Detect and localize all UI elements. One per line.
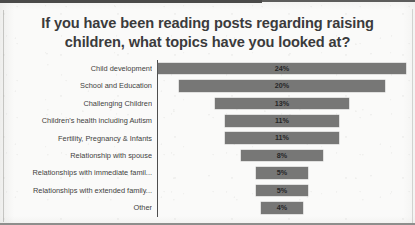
bar-row: School and Education20% xyxy=(0,77,415,94)
bar-track: 4% xyxy=(158,199,406,216)
bar-track: 11% xyxy=(158,130,406,147)
bar-value-label: 4% xyxy=(261,202,302,214)
category-label: School and Education xyxy=(2,77,152,94)
top-border-line-dark xyxy=(0,0,262,3)
bar-track: 5% xyxy=(158,164,406,181)
bar-value-label: 13% xyxy=(215,98,349,110)
category-label: Child development xyxy=(2,60,152,77)
bar-value-label: 5% xyxy=(256,167,308,179)
bar-row: Children's health including Autism11% xyxy=(0,112,415,129)
bar-rows: Child development24%School and Education… xyxy=(0,60,415,217)
plot-area: Child development24%School and Education… xyxy=(0,60,415,218)
chart-screenshot: If you have been reading posts regarding… xyxy=(0,0,415,225)
category-label: Other xyxy=(2,199,152,216)
bar-track: 11% xyxy=(158,112,406,129)
chart-title: If you have been reading posts regarding… xyxy=(14,14,401,52)
bar-track: 8% xyxy=(158,147,406,164)
bar-track: 5% xyxy=(158,182,406,199)
bottom-border-line xyxy=(0,223,415,225)
bar-value-label: 8% xyxy=(241,150,324,162)
category-label: Challenging Children xyxy=(2,95,152,112)
bar-value-label: 5% xyxy=(256,185,308,197)
category-label: Fertility, Pregnancy & Infants xyxy=(2,130,152,147)
bar-row: Other4% xyxy=(0,199,415,216)
category-label: Relationships with immediate famil... xyxy=(2,164,152,181)
bar-value-label: 11% xyxy=(225,132,339,144)
bar-row: Relationships with extended family...5% xyxy=(0,182,415,199)
chart-title-line-1: If you have been reading posts regarding… xyxy=(14,14,401,33)
bar-value-label: 24% xyxy=(158,63,406,75)
category-label: Relationships with extended family... xyxy=(2,182,152,199)
bar-row: Child development24% xyxy=(0,60,415,77)
bar-value-label: 20% xyxy=(179,80,386,92)
bar-row: Relationship with spouse8% xyxy=(0,147,415,164)
bar-track: 13% xyxy=(158,95,406,112)
chart-title-line-2: children, what topics have you looked at… xyxy=(14,33,401,52)
bar-value-label: 11% xyxy=(225,115,339,127)
bar-track: 24% xyxy=(158,60,406,77)
bar-row: Fertility, Pregnancy & Infants11% xyxy=(0,130,415,147)
category-label: Relationship with spouse xyxy=(2,147,152,164)
bar-track: 20% xyxy=(158,77,406,94)
category-label: Children's health including Autism xyxy=(2,112,152,129)
bar-row: Relationships with immediate famil...5% xyxy=(0,164,415,181)
bar-row: Challenging Children13% xyxy=(0,95,415,112)
